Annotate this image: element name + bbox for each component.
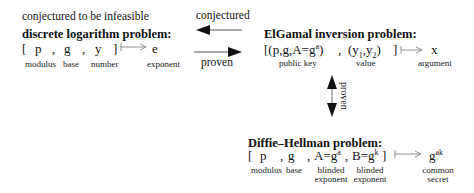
dlog-mapsto-arrow	[121, 43, 146, 51]
dlog-y: y	[95, 41, 102, 57]
dlog-label-modulus: modulus	[25, 60, 56, 69]
dlog-comma-1: ,	[52, 41, 55, 57]
dlog-close-bracket: ]	[113, 41, 117, 57]
dlog-output-e: e	[152, 41, 158, 57]
elgamal-label-public-key: public key	[279, 59, 317, 68]
dh-comma-2: ,	[307, 148, 310, 164]
elgamal-title: ElGamal inversion problem:	[264, 27, 417, 42]
dlog-comma-2: ,	[82, 41, 85, 57]
elgamal-comma: ,	[338, 42, 341, 58]
dh-output-gak: gak	[429, 148, 443, 164]
dh-label-blinded-exponent-k: blindedexponent	[350, 166, 390, 184]
vertical-proven-label: proven	[339, 82, 350, 110]
dh-comma-3: ,	[345, 148, 348, 164]
conjectured-label: conjectured	[196, 9, 250, 21]
proven-label: proven	[201, 56, 233, 68]
elgamal-label-argument: argument	[418, 59, 452, 68]
dh-A: A=ga	[314, 148, 341, 164]
dh-label-blinded-exponent-a: blindedexponent	[311, 166, 351, 184]
dh-label-base: base	[286, 166, 302, 175]
dh-B: B=gk	[352, 148, 379, 164]
elgamal-mapsto-arrow	[401, 46, 422, 54]
dh-comma-1: ,	[280, 148, 283, 164]
dh-close-bracket: ]	[382, 148, 386, 164]
dh-p: p	[260, 148, 267, 164]
conjectured-arrow	[196, 25, 242, 35]
elgamal-close-bracket: ]	[393, 42, 397, 58]
vertical-proven-arrow	[327, 75, 337, 117]
dh-mapsto-arrow	[395, 150, 421, 158]
dlog-label-number: number	[91, 60, 119, 69]
elgamal-value: (y1,y2)	[348, 42, 381, 58]
dh-open-bracket: [	[248, 148, 252, 164]
dh-label-common-secret: commonsecret	[421, 166, 455, 184]
elgamal-output-x: x	[431, 42, 438, 58]
dlog-p: p	[35, 41, 42, 57]
dlog-g: g	[64, 41, 71, 57]
infeasible-caption: conjectured to be infeasible	[22, 10, 149, 22]
dlog-label-exponent: exponent	[147, 60, 180, 69]
dh-g: g	[288, 148, 295, 164]
dlog-label-base: base	[63, 60, 79, 69]
dlog-title: discrete logarithm problem:	[22, 27, 172, 42]
dh-label-modulus: modulus	[251, 166, 282, 175]
dlog-open-bracket: [	[22, 41, 26, 57]
elgamal-label-value: value	[356, 59, 376, 68]
elgamal-public-key: [(p,g,A=ga)	[264, 42, 323, 58]
